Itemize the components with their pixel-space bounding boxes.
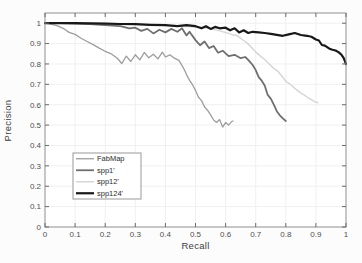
legend-label-1: FabMap — [97, 154, 125, 163]
y-tick-label: 0.5 — [30, 121, 42, 130]
legend-label-2: spp1' — [97, 166, 115, 175]
x-axis-label: Recall — [45, 240, 346, 251]
y-tick-label: 0.2 — [30, 182, 42, 191]
x-tick-label: 0 — [43, 230, 48, 239]
x-tick-label: 0.7 — [250, 230, 262, 239]
x-tick-label: 0.3 — [130, 230, 142, 239]
x-tick-label: 0.6 — [220, 230, 232, 239]
y-tick-label: 0.1 — [30, 202, 42, 211]
y-tick-label: 0.4 — [30, 141, 42, 150]
plot-area: 00.10.20.30.40.50.60.70.80.9100.10.20.30… — [0, 0, 362, 263]
legend-label-3: spp12' — [97, 177, 119, 186]
x-tick-label: 0.9 — [310, 230, 322, 239]
y-tick-label: 0.6 — [30, 101, 42, 110]
y-tick-label: 1 — [37, 19, 42, 28]
y-tick-label: 0.9 — [30, 39, 42, 48]
y-tick-label: 0.3 — [30, 162, 42, 171]
x-tick-label: 0.2 — [100, 230, 112, 239]
x-tick-label: 1 — [344, 230, 349, 239]
legend-label-4: spp124' — [97, 189, 124, 198]
x-tick-label: 0.8 — [280, 230, 292, 239]
precision-recall-figure: 00.10.20.30.40.50.60.70.80.9100.10.20.30… — [0, 0, 362, 263]
x-tick-label: 0.4 — [160, 230, 172, 239]
y-axis-label: Precision — [2, 76, 13, 166]
y-tick-label: 0 — [37, 223, 42, 232]
y-tick-label: 0.8 — [30, 60, 42, 69]
y-tick-label: 0.7 — [30, 80, 42, 89]
x-tick-label: 0.1 — [70, 230, 82, 239]
x-tick-label: 0.5 — [190, 230, 202, 239]
